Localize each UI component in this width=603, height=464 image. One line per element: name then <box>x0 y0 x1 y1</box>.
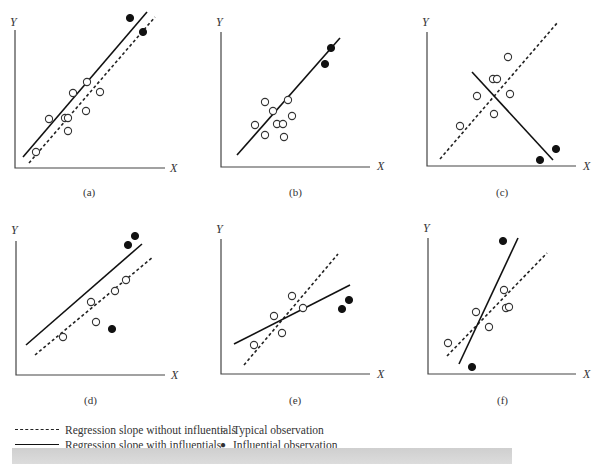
regression-line-without-influentials <box>440 22 558 159</box>
typical-observation-point <box>251 121 258 128</box>
influential-observation-point <box>536 156 543 163</box>
typical-observation-point <box>82 107 89 114</box>
x-axis-label-e: X <box>376 367 385 381</box>
x-axis-label-a: X <box>169 161 178 175</box>
typical-observation-point <box>69 89 76 96</box>
influential-observation-point <box>131 232 138 239</box>
open-circle-icon: ○ <box>218 424 228 435</box>
typical-observation-point <box>32 148 39 155</box>
typical-observation-point <box>92 318 99 325</box>
axes-a <box>15 30 165 168</box>
y-axis-label-e: Y <box>216 222 224 236</box>
regression-line-without-influentials <box>29 17 155 163</box>
typical-observation-point <box>472 308 479 315</box>
influential-observation-point <box>321 60 328 67</box>
regression-line-with-influentials <box>26 244 142 345</box>
influential-observation-point <box>552 145 559 152</box>
typical-observation-point <box>250 341 257 348</box>
y-axis-label-f: Y <box>423 221 431 235</box>
x-axis-label-f: X <box>582 367 591 381</box>
typical-observation-point <box>96 88 103 95</box>
typical-observation-point <box>64 127 71 134</box>
typical-observation-point <box>299 304 306 311</box>
typical-observation-point <box>87 298 94 305</box>
influential-observation-point <box>108 325 115 332</box>
regression-line-without-influentials <box>244 254 338 365</box>
typical-observation-point <box>111 287 118 294</box>
influential-observation-point <box>327 44 334 51</box>
x-axis-label-d: X <box>170 368 179 382</box>
regression-line-without-influentials <box>35 257 153 355</box>
typical-observation-point <box>83 78 90 85</box>
typical-observation-point <box>279 120 286 127</box>
panel-c: Y X (c) <box>422 15 591 199</box>
bottom-divider-bar <box>12 448 512 464</box>
legend-item-without: Regression slope without influentials <box>15 422 236 437</box>
typical-observation-point <box>59 333 66 340</box>
typical-observation-point <box>288 292 295 299</box>
x-axis-label-c: X <box>582 159 591 173</box>
legend-label-typical: Typical observation <box>233 424 324 436</box>
plot-d <box>26 232 153 355</box>
typical-observation-point <box>500 286 507 293</box>
figure-panels: Y X (a) Y X (b) Y X (c) Y X (d) Y X (e) … <box>0 0 603 420</box>
influential-observation-point <box>139 28 146 35</box>
typical-observation-point <box>284 96 291 103</box>
panel-caption-a: (a) <box>83 186 96 199</box>
plot-a <box>23 12 155 163</box>
influential-observation-point <box>499 237 506 244</box>
influential-observation-point <box>468 363 475 370</box>
dashed-line-swatch-icon <box>15 429 59 430</box>
y-axis-label-b: Y <box>216 15 224 29</box>
typical-observation-point <box>269 107 276 114</box>
typical-observation-point <box>456 122 463 129</box>
panel-caption-e: (e) <box>289 394 302 407</box>
typical-observation-point <box>490 110 497 117</box>
typical-observation-point <box>506 90 513 97</box>
legend-label-without: Regression slope without influentials <box>65 424 236 436</box>
y-axis-label-d: Y <box>11 223 19 237</box>
panel-caption-b: (b) <box>289 186 302 199</box>
typical-observation-point <box>64 114 71 121</box>
typical-observation-point <box>45 115 52 122</box>
panel-b: Y X (b) <box>216 15 385 199</box>
typical-observation-point <box>505 303 512 310</box>
y-axis-label-a: Y <box>10 15 18 29</box>
panel-a: Y X (a) <box>10 12 178 199</box>
typical-observation-point <box>485 323 492 330</box>
panel-caption-f: (f) <box>497 394 508 407</box>
panel-caption-d: (d) <box>84 394 97 407</box>
panel-caption-c: (c) <box>496 186 509 199</box>
typical-observation-point <box>278 329 285 336</box>
axes-f <box>428 238 576 374</box>
legend-item-typical: ○ Typical observation <box>218 422 337 437</box>
typical-observation-point <box>473 92 480 99</box>
plot-b <box>237 38 340 155</box>
typical-observation-point <box>280 133 287 140</box>
panel-e: Y X (e) <box>216 222 385 407</box>
y-axis-label-c: Y <box>422 15 430 29</box>
plot-c <box>440 22 560 164</box>
influential-observation-point <box>345 296 352 303</box>
panel-d: Y X (d) <box>11 223 179 407</box>
influential-observation-point <box>126 14 133 21</box>
plot-e <box>234 254 353 365</box>
x-axis-label-b: X <box>376 159 385 173</box>
typical-observation-point <box>504 53 511 60</box>
typical-observation-point <box>122 276 129 283</box>
typical-observation-point <box>288 112 295 119</box>
axes-e <box>221 239 370 374</box>
influential-observation-point <box>338 305 345 312</box>
plot-f <box>444 237 547 370</box>
solid-line-swatch-icon <box>15 444 59 445</box>
influential-observation-point <box>124 241 131 248</box>
typical-observation-point <box>493 75 500 82</box>
panel-f: Y X (f) <box>423 221 591 407</box>
typical-observation-point <box>444 339 451 346</box>
typical-observation-point <box>261 131 268 138</box>
regression-line-with-influentials <box>459 238 518 364</box>
regression-line-without-influentials <box>447 253 547 356</box>
regression-line-with-influentials <box>472 72 553 160</box>
typical-observation-point <box>270 312 277 319</box>
typical-observation-point <box>261 98 268 105</box>
